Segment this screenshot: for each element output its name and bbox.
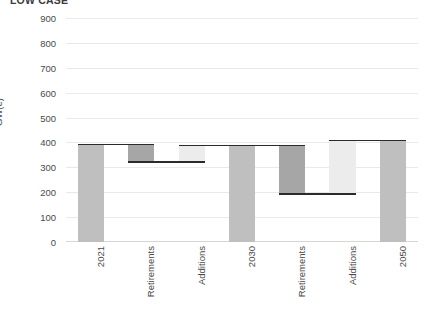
bar-decrease[interactable] [128, 144, 154, 161]
x-axis-tick-label: 2021 [95, 246, 106, 267]
y-axis-tick-label: 100 [16, 212, 56, 223]
waterfall-connector [128, 161, 204, 163]
y-axis-tick-label: 400 [16, 137, 56, 148]
bar-total[interactable] [380, 140, 406, 242]
x-axis-tick-label: 2050 [397, 246, 408, 267]
x-axis-tick-label: Retirements [145, 246, 156, 297]
bar-total[interactable] [78, 144, 104, 242]
y-axis-tick-label: 600 [16, 87, 56, 98]
plot-area [66, 18, 418, 242]
y-axis-tick-label: 700 [16, 62, 56, 73]
waterfall-chart: LOW CASE GW(e) 9008007006005004003002001… [0, 0, 429, 310]
y-axis-tick-label: 300 [16, 162, 56, 173]
waterfall-connector [78, 144, 154, 146]
gridline [66, 118, 418, 119]
bar-increase[interactable] [179, 145, 205, 161]
x-axis-tick-label: Additions [347, 246, 358, 285]
y-axis-tick-label: 200 [16, 187, 56, 198]
gridline [66, 43, 418, 44]
y-axis-tick-label: 500 [16, 112, 56, 123]
y-axis-tick-label: 0 [16, 237, 56, 248]
waterfall-connector [329, 140, 405, 142]
bar-decrease[interactable] [279, 145, 305, 194]
y-axis-tick-label: 900 [16, 13, 56, 24]
x-axis-tick-label: 2030 [246, 246, 257, 267]
x-axis-tick-label: Additions [196, 246, 207, 285]
y-axis-title: GW(e) [0, 98, 4, 126]
gridline [66, 68, 418, 69]
bar-total[interactable] [229, 145, 255, 242]
x-axis-tick-label: Retirements [296, 246, 307, 297]
y-axis-tick-label: 800 [16, 37, 56, 48]
chart-title: LOW CASE [10, 0, 68, 6]
bar-increase[interactable] [329, 140, 355, 194]
gridline [66, 18, 418, 19]
waterfall-connector [279, 193, 355, 195]
waterfall-connector [229, 145, 305, 147]
gridline [66, 93, 418, 94]
